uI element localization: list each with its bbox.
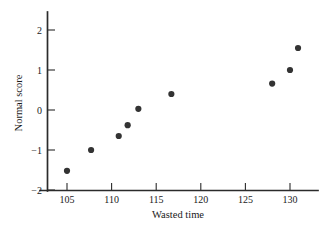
x-tick-label-0: 105 [60, 194, 75, 205]
x-axis-title: Wasted time [152, 209, 204, 220]
y-tick-label-4: −2 [31, 185, 42, 196]
data-point [135, 106, 141, 112]
x-tick-label-2: 115 [149, 194, 164, 205]
y-tick-label-2: 0 [37, 105, 42, 116]
x-tick-label-5: 130 [283, 194, 298, 205]
x-tick-labels: 105 110 115 120 125 130 [60, 194, 298, 205]
x-tick-marks [67, 183, 290, 190]
data-point [269, 81, 275, 87]
y-tick-labels: 2 1 0 −1 −2 [31, 25, 42, 196]
x-tick-label-4: 125 [238, 194, 253, 205]
data-points-layer [64, 45, 301, 174]
y-tick-label-0: 2 [37, 25, 42, 36]
data-point [287, 67, 293, 73]
x-tick-label-1: 110 [104, 194, 119, 205]
y-axis-title: Normal score [13, 74, 24, 131]
x-tick-label-3: 120 [193, 194, 208, 205]
normal-probability-plot: 2 1 0 −1 −2 105 110 115 120 125 130 Wast… [0, 0, 327, 225]
data-point [88, 147, 94, 153]
data-point [116, 133, 122, 139]
data-point [64, 168, 70, 174]
data-point [295, 45, 301, 51]
plot-canvas: 2 1 0 −1 −2 105 110 115 120 125 130 Wast… [0, 0, 327, 225]
y-tick-label-1: 1 [37, 65, 42, 76]
y-tick-marks [48, 30, 55, 190]
y-tick-label-3: −1 [31, 145, 42, 156]
data-point [125, 122, 131, 128]
data-point [168, 91, 174, 97]
